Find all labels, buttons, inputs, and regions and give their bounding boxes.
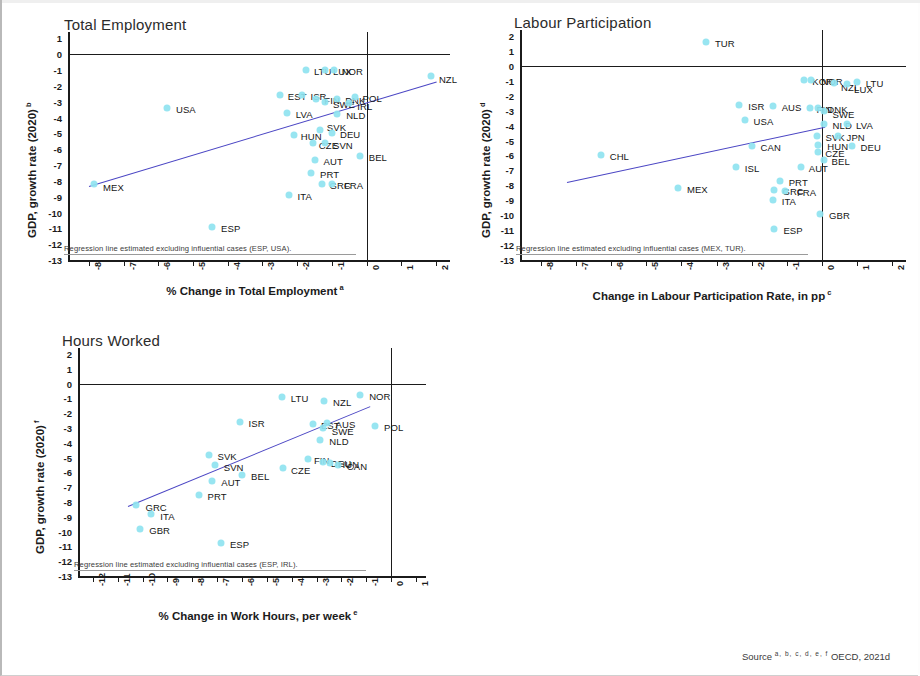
y-axis-title-text: GDP, growth rate (2020) bbox=[34, 425, 46, 554]
x-tick-label: -2 bbox=[345, 578, 355, 586]
x-axis-title-footnote: e bbox=[351, 608, 357, 617]
x-tick-label: -1 bbox=[370, 578, 380, 586]
scatter-point-label: LTU bbox=[291, 392, 309, 403]
scatter-point bbox=[211, 461, 218, 468]
x-axis-title-text: % Change in Work Hours, per week bbox=[158, 610, 351, 622]
y-tick-label: -8 bbox=[46, 496, 72, 507]
source-label: Source bbox=[742, 651, 772, 662]
x-tick-label: -9 bbox=[171, 578, 181, 586]
x-tick-mark bbox=[391, 576, 392, 582]
scatter-point bbox=[137, 525, 144, 532]
chart-title-hours-worked: Hours Worked bbox=[62, 332, 160, 349]
scatter-point-label: NZL bbox=[333, 396, 351, 407]
y-tick-label: -1 bbox=[46, 393, 72, 404]
x-tick-mark bbox=[292, 576, 293, 582]
x-tick-label: -11 bbox=[122, 573, 132, 586]
x-tick-mark bbox=[317, 576, 318, 582]
scatter-point bbox=[280, 464, 287, 471]
y-tick-label: -4 bbox=[46, 437, 72, 448]
scatter-point-label: ESP bbox=[230, 539, 249, 550]
x-tick-mark bbox=[118, 576, 119, 582]
x-tick-label: -6 bbox=[246, 578, 256, 586]
scatter-point bbox=[321, 397, 328, 404]
x-tick-label: -5 bbox=[271, 578, 281, 586]
scatter-point bbox=[236, 419, 243, 426]
scatter-point-label: NOR bbox=[369, 390, 390, 401]
source-citation: OECD, 2021d bbox=[831, 651, 890, 662]
x-tick-mark bbox=[192, 576, 193, 582]
scatter-point bbox=[133, 501, 140, 508]
scatter-point bbox=[317, 436, 324, 443]
source-line: Source a, b, c, d, e, f OECD, 2021d bbox=[742, 650, 890, 662]
x-tick-mark bbox=[341, 576, 342, 582]
scatter-point-label: SVK bbox=[218, 450, 237, 461]
scatter-point-label: CAN bbox=[347, 460, 367, 471]
y-tick-label: 1 bbox=[46, 363, 72, 374]
scatter-point bbox=[327, 460, 334, 467]
y-tick-label: -2 bbox=[46, 408, 72, 419]
y-tick-label: -3 bbox=[46, 422, 72, 433]
scatter-point bbox=[209, 478, 216, 485]
zero-horizontal-line bbox=[78, 384, 426, 385]
scatter-point bbox=[205, 451, 212, 458]
scatter-point-label: PRT bbox=[208, 490, 227, 501]
x-tick-mark bbox=[167, 576, 168, 582]
y-tick-label: -9 bbox=[46, 511, 72, 522]
y-tick-label: -7 bbox=[46, 482, 72, 493]
scatter-point-label: ISR bbox=[249, 418, 265, 429]
scatter-point bbox=[319, 459, 326, 466]
x-tick-mark bbox=[366, 576, 367, 582]
x-tick-label: -10 bbox=[147, 573, 157, 586]
regression-note-underline bbox=[74, 570, 366, 571]
scatter-point-label: ITA bbox=[160, 510, 174, 521]
x-tick-label: 0 bbox=[395, 581, 405, 586]
scatter-point-label: AUT bbox=[221, 477, 240, 488]
y-tick-label: -12 bbox=[46, 556, 72, 567]
source-footnote-marks: a, b, c, d, e, f bbox=[775, 650, 829, 657]
y-tick-label: 0 bbox=[46, 378, 72, 389]
x-tick-label: -3 bbox=[321, 578, 331, 586]
y-axis-title-footnote: f bbox=[32, 421, 41, 426]
scatter-point-label: SVN bbox=[224, 461, 244, 472]
x-tick-mark bbox=[416, 576, 417, 582]
scatter-point-label: GBR bbox=[149, 524, 170, 535]
x-tick-label: -8 bbox=[196, 578, 206, 586]
y-tick-label: -11 bbox=[46, 541, 72, 552]
scatter-point bbox=[278, 393, 285, 400]
scatter-point bbox=[372, 423, 379, 430]
scatter-point-label: BEL bbox=[251, 471, 269, 482]
x-tick-label: -7 bbox=[221, 578, 231, 586]
x-tick-mark bbox=[267, 576, 268, 582]
y-tick-label: -6 bbox=[46, 467, 72, 478]
x-tick-label: -12 bbox=[97, 573, 107, 586]
scatter-point-label: NLD bbox=[329, 435, 348, 446]
y-tick-label: 2 bbox=[46, 348, 72, 359]
x-tick-mark bbox=[242, 576, 243, 582]
x-tick-mark bbox=[93, 576, 94, 582]
x-tick-mark bbox=[143, 576, 144, 582]
y-axis-line bbox=[78, 348, 80, 576]
scatter-point bbox=[148, 510, 155, 517]
scatter-point bbox=[217, 540, 224, 547]
scatter-point bbox=[195, 491, 202, 498]
scatter-point bbox=[334, 461, 341, 468]
scatter-point-label: POL bbox=[384, 422, 403, 433]
scatter-point bbox=[304, 456, 311, 463]
x-tick-label: 1 bbox=[420, 581, 430, 586]
x-axis-title: % Change in Work Hours, per week e bbox=[68, 608, 448, 622]
y-tick-label: -5 bbox=[46, 452, 72, 463]
scatter-point bbox=[357, 391, 364, 398]
regression-note: Regression line estimated excluding infl… bbox=[74, 560, 298, 569]
scatter-point bbox=[309, 421, 316, 428]
y-tick-label: -10 bbox=[46, 526, 72, 537]
zero-vertical-line bbox=[391, 348, 392, 576]
scatter-point bbox=[319, 424, 326, 431]
y-tick-label: -13 bbox=[46, 571, 72, 582]
y-axis-title: GDP, growth rate (2020) f bbox=[32, 421, 46, 554]
x-tick-label: -4 bbox=[296, 578, 306, 586]
x-tick-mark bbox=[217, 576, 218, 582]
scatter-point-label: CZE bbox=[291, 464, 310, 475]
